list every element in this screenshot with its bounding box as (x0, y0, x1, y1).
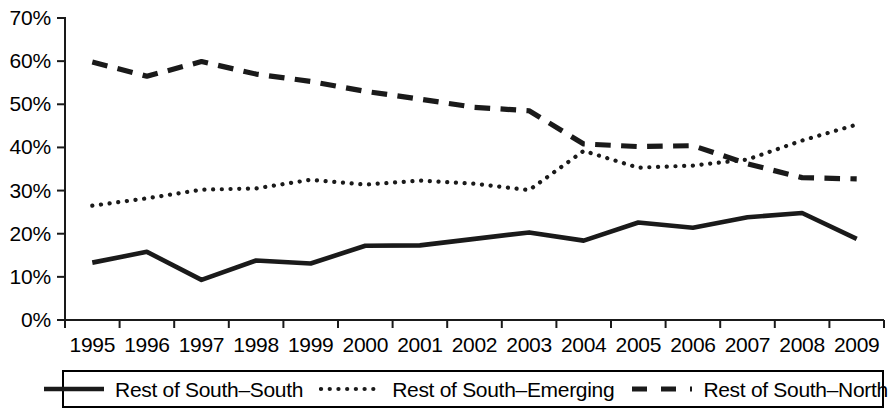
y-axis-tick-label: 30% (0, 180, 51, 201)
y-axis-tick-label: 60% (0, 50, 51, 71)
axis-group (57, 17, 884, 328)
x-axis-tick-label: 2004 (556, 334, 611, 355)
legend-item: Rest of South–Emerging (319, 379, 630, 400)
x-axis-tick-label: 2002 (447, 334, 502, 355)
y-axis-tick-label: 70% (0, 7, 51, 28)
chart-legend: Rest of South–SouthRest of South–Emergin… (62, 370, 884, 408)
x-axis-tick-label: 1998 (229, 334, 284, 355)
series-group (92, 62, 856, 280)
y-axis-tick-label: 20% (0, 223, 51, 244)
legend-item-label: Rest of South–Emerging (392, 379, 614, 400)
y-axis-tick-label: 40% (0, 136, 51, 157)
line-chart: 0%10%20%30%40%50%60%70% 1995199619971998… (0, 0, 888, 411)
legend-item: Rest of South–North (630, 379, 888, 400)
x-axis-tick-label: 2009 (829, 334, 884, 355)
y-axis-tick-label: 50% (0, 93, 51, 114)
x-axis-tick-label: 2001 (393, 334, 448, 355)
legend-item: Rest of South–South (42, 379, 319, 400)
x-axis-tick-label: 1996 (120, 334, 175, 355)
x-axis-tick-label: 2005 (611, 334, 666, 355)
legend-item-label: Rest of South–North (703, 379, 888, 400)
x-axis-tick-label: 2006 (666, 334, 721, 355)
x-axis-tick-label: 1995 (65, 334, 120, 355)
series-line-1 (92, 213, 856, 280)
x-axis-tick-label: 1999 (283, 334, 338, 355)
y-axis-tick-label: 10% (0, 266, 51, 287)
series-line-2 (92, 125, 856, 206)
x-axis-tick-label: 1997 (174, 334, 229, 355)
y-axis-tick-label: 0% (0, 309, 51, 330)
series-line-3 (92, 62, 856, 179)
x-axis-tick-label: 2000 (338, 334, 393, 355)
x-axis-tick-label: 2003 (502, 334, 557, 355)
legend-swatch-dashed-icon (630, 382, 694, 396)
x-axis-tick-label: 2008 (775, 334, 830, 355)
legend-swatch-solid-icon (42, 382, 106, 396)
legend-swatch-dotted-icon (319, 382, 383, 396)
legend-item-label: Rest of South–South (115, 379, 303, 400)
x-axis-tick-label: 2007 (720, 334, 775, 355)
